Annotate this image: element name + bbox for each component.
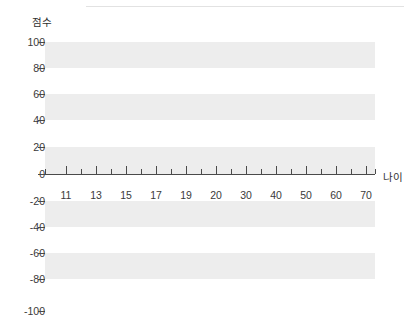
y-axis-tick-mark [38,120,45,121]
x-axis-minor-tick-mark [111,169,112,174]
x-axis-tick-label: 70 [360,190,372,201]
x-axis-title: 나이 [383,169,403,184]
x-axis-line [45,174,375,175]
x-axis-tick-label: 13 [90,190,102,201]
x-axis-tick-label: 15 [120,190,132,201]
plot-band [45,42,375,68]
y-axis-tick-mark [38,174,45,175]
x-axis-major-tick-mark [156,166,157,174]
x-axis-major-tick-mark [276,166,277,174]
x-axis-tick-label: 40 [270,190,282,201]
x-axis-major-tick-mark [336,166,337,174]
plot-band [45,147,375,174]
x-axis-major-tick-mark [96,166,97,174]
x-axis-minor-tick-mark [201,169,202,174]
x-axis-minor-tick-mark [45,169,46,174]
chart-container: 점수 100806040200-20-40-60-80-100 11131517… [0,0,410,323]
x-axis-tick-label: 19 [180,190,192,201]
x-axis-minor-tick-mark [351,169,352,174]
x-axis-major-tick-mark [216,166,217,174]
y-axis-tick-mark [38,227,45,228]
x-axis-major-tick-mark [246,166,247,174]
x-axis-minor-tick-mark [321,169,322,174]
y-axis-tick-mark [38,253,45,254]
x-axis-major-tick-mark [366,166,367,174]
y-axis-title: 점수 [32,14,52,29]
x-axis-minor-tick-mark [291,169,292,174]
top-divider-rule [86,6,404,7]
x-axis-minor-tick-mark [261,169,262,174]
x-axis-minor-tick-mark [375,169,376,174]
x-axis-tick-label: 17 [150,190,162,201]
y-axis-tick-mark [38,311,45,312]
x-axis-major-tick-mark [126,166,127,174]
y-axis-tick-mark [38,201,45,202]
x-axis-tick-label: 50 [300,190,312,201]
x-axis-tick-label: 11 [61,190,72,201]
x-axis-minor-tick-mark [141,169,142,174]
x-axis-minor-tick-mark [171,169,172,174]
plot-band [45,94,375,120]
x-axis-major-tick-mark [186,166,187,174]
x-axis-tick-label: 20 [210,190,222,201]
x-axis-tick-label: 30 [240,190,252,201]
x-axis-major-tick-mark [66,166,67,174]
y-axis-tick-mark [38,42,45,43]
y-axis-tick-mark [38,279,45,280]
y-axis-tick-mark [38,94,45,95]
x-axis-major-tick-mark [306,166,307,174]
y-axis-tick-mark [38,147,45,148]
plot-band [45,201,375,227]
x-axis-minor-tick-mark [231,169,232,174]
y-axis-tick-mark [38,68,45,69]
plot-band [45,253,375,279]
x-axis-minor-tick-mark [81,169,82,174]
x-axis-tick-label: 60 [330,190,342,201]
